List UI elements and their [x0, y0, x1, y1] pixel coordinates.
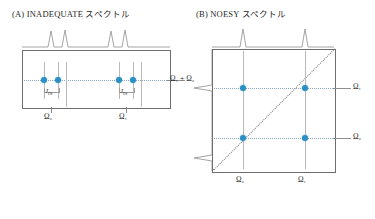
- j-label-a-2: JIS: [120, 87, 128, 96]
- panel-b-title: (B) NOESY スペクトル: [196, 7, 287, 19]
- spectrum-box-b: [212, 49, 336, 173]
- cross-peak-b-2: [302, 135, 308, 141]
- cross-peak-a-4: [130, 77, 136, 83]
- cross-peak-a-1: [41, 77, 47, 83]
- axis-lead-line-b-1: [333, 88, 351, 89]
- axis-lead-line-b-2: [333, 138, 351, 139]
- guide-line-b-h2: [214, 138, 333, 139]
- axis-label-b-omega1: Ω₁: [353, 82, 361, 91]
- projection-trace-left-b: [192, 49, 214, 171]
- panel-inadequate: (A) INADEQUATE スペクトル JIS JIS Ω₂ Ω₁ Ω₁ + …: [0, 0, 188, 219]
- diagonal-peak-b-1: [302, 85, 308, 91]
- axis-label-a-omega1: Ω₁: [119, 112, 127, 121]
- axis-label-b-bottom-omega1: Ω₁: [298, 175, 306, 184]
- axis-label-a-omega2: Ω₂: [44, 112, 52, 121]
- guide-line-a-3: [66, 62, 67, 107]
- projection-trace-top-b: [212, 27, 334, 49]
- projection-trace-top-a: [22, 27, 170, 49]
- j-subscript-a-2: IS: [123, 91, 127, 96]
- cross-peak-a-3: [116, 77, 122, 83]
- cross-peak-b-1: [240, 85, 246, 91]
- axis-label-b-omega2: Ω₂: [353, 132, 361, 141]
- panel-noesy: (B) NOESY スペクトル Ω₁ Ω₂ Ω₂ Ω₁: [188, 0, 375, 219]
- j-subscript-a-1: IS: [48, 91, 52, 96]
- panel-a-title: (A) INADEQUATE スペクトル: [12, 7, 130, 19]
- diagonal-peak-b-2: [240, 135, 246, 141]
- guide-line-b-v1: [243, 51, 244, 169]
- guide-line-b-v2: [305, 51, 306, 169]
- j-label-a-1: JIS: [45, 87, 53, 96]
- guide-line-b-h1: [214, 88, 333, 89]
- guide-line-a-6: [141, 62, 142, 107]
- axis-label-b-bottom-omega2: Ω₂: [236, 175, 244, 184]
- cross-peak-a-2: [55, 77, 61, 83]
